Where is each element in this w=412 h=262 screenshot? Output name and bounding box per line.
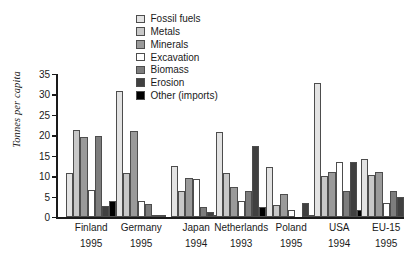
y-tick-mark	[52, 197, 56, 198]
bar	[397, 197, 404, 217]
bar	[321, 176, 328, 217]
bar	[73, 130, 80, 217]
legend-swatch-icon	[136, 40, 145, 49]
bar-group	[116, 74, 166, 217]
bar	[223, 173, 230, 217]
bar	[95, 136, 102, 217]
y-tick-mark	[52, 74, 56, 75]
legend-label: Excavation	[151, 52, 200, 63]
bar	[123, 173, 130, 217]
y-tick-mark	[52, 135, 56, 136]
y-tick-mark	[52, 94, 56, 95]
bar-group	[171, 74, 221, 217]
y-tick-label: 5	[44, 191, 50, 202]
legend-label: Minerals	[151, 39, 189, 50]
bar	[314, 83, 321, 217]
x-axis-category-year: 1995	[346, 238, 412, 249]
y-tick-mark	[52, 156, 56, 157]
bar	[152, 215, 159, 217]
bar	[145, 204, 152, 217]
x-axis-category-name: EU-15	[346, 222, 412, 233]
bar	[66, 173, 73, 217]
y-axis-title: Tonnes per capita	[11, 50, 22, 170]
legend-item: Excavation	[136, 51, 276, 63]
bar	[336, 162, 343, 217]
bar	[245, 191, 252, 217]
y-tick-mark	[52, 115, 56, 116]
y-tick-label: 30	[39, 89, 50, 100]
bar	[80, 137, 87, 217]
bar	[273, 205, 280, 217]
y-axis-line	[56, 74, 58, 217]
bar	[252, 146, 259, 218]
bar	[238, 201, 245, 217]
bar-group	[361, 74, 411, 217]
bar	[350, 162, 357, 217]
bar	[159, 215, 166, 217]
legend-item: Minerals	[136, 39, 276, 51]
bar	[102, 206, 109, 217]
x-axis-line	[56, 217, 404, 219]
bar	[328, 172, 335, 217]
bar	[138, 201, 145, 217]
bar	[266, 167, 273, 217]
y-tick-mark	[52, 176, 56, 177]
legend-item: Metals	[136, 26, 276, 38]
bar	[280, 194, 287, 217]
legend-label: Metals	[151, 26, 180, 37]
bar	[230, 187, 237, 217]
plot-area: 05101520253035	[56, 74, 404, 217]
bar-group	[266, 74, 316, 217]
bar	[361, 159, 368, 217]
bar	[200, 207, 207, 217]
legend-swatch-icon	[136, 27, 145, 36]
y-tick-label: 20	[39, 130, 50, 141]
legend-label: Fossil fuels	[151, 13, 201, 24]
bar	[193, 179, 200, 217]
bar	[216, 132, 223, 217]
bar	[207, 212, 214, 217]
bar	[88, 190, 95, 217]
legend-item: Fossil fuels	[136, 13, 276, 25]
bar-chart: Tonnes per capita Fossil fuelsMetalsMine…	[0, 0, 412, 262]
bar-group	[66, 74, 116, 217]
bar	[130, 131, 137, 217]
y-tick-label: 35	[39, 69, 50, 80]
legend-swatch-icon	[136, 66, 145, 75]
y-tick-mark	[52, 217, 56, 218]
y-tick-label: 0	[44, 212, 50, 223]
bar	[171, 166, 178, 217]
legend-swatch-icon	[136, 53, 145, 62]
legend-swatch-icon	[136, 15, 145, 24]
y-tick-label: 10	[39, 171, 50, 182]
bar	[116, 91, 123, 217]
bar	[390, 191, 397, 217]
bar	[368, 175, 375, 217]
bar-group	[314, 74, 364, 217]
bar	[288, 210, 295, 217]
bar	[383, 203, 390, 217]
bar-group	[216, 74, 266, 217]
bar	[185, 178, 192, 217]
y-tick-label: 15	[39, 150, 50, 161]
bar	[375, 172, 382, 217]
y-tick-label: 25	[39, 109, 50, 120]
bar	[178, 191, 185, 217]
bar	[302, 203, 309, 217]
bar	[343, 191, 350, 217]
